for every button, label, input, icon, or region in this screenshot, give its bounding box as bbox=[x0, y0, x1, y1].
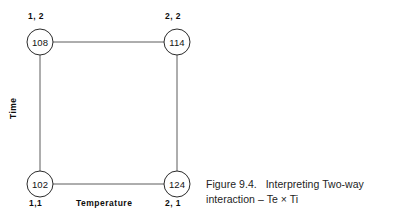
node-top-right: 114 bbox=[164, 29, 190, 55]
x-axis-title: Temperature bbox=[76, 199, 132, 208]
plot-canvas: 108 114 102 124 bbox=[0, 0, 206, 222]
node-value-bottom-left: 102 bbox=[32, 179, 48, 190]
cell-label-top-left: 1, 2 bbox=[28, 12, 44, 21]
connector-lines bbox=[40, 42, 177, 184]
cell-label-top-right: 2, 2 bbox=[165, 12, 181, 21]
figure-9-4: 108 114 102 124 1, 2 2, 2 1,1 2, 1 Time bbox=[0, 0, 406, 222]
figure-caption: Figure 9.4. Interpreting Two-way interac… bbox=[206, 177, 402, 207]
node-value-top-right: 114 bbox=[169, 37, 184, 48]
cell-label-bottom-right: 2, 1 bbox=[165, 199, 181, 208]
node-bottom-left: 102 bbox=[27, 171, 53, 197]
interaction-plot: 108 114 102 124 1, 2 2, 2 1,1 2, 1 Time bbox=[0, 0, 206, 222]
node-value-bottom-right: 124 bbox=[169, 179, 185, 190]
node-value-top-left: 108 bbox=[32, 37, 48, 48]
figure-caption-line-2: interaction – Te × Ti bbox=[206, 192, 402, 207]
node-top-left: 108 bbox=[27, 29, 53, 55]
y-axis-title: Time bbox=[9, 86, 18, 130]
figure-caption-line-1: Figure 9.4. Interpreting Two-way bbox=[206, 177, 402, 192]
cell-label-bottom-left: 1,1 bbox=[29, 199, 42, 208]
node-bottom-right: 124 bbox=[164, 171, 190, 197]
